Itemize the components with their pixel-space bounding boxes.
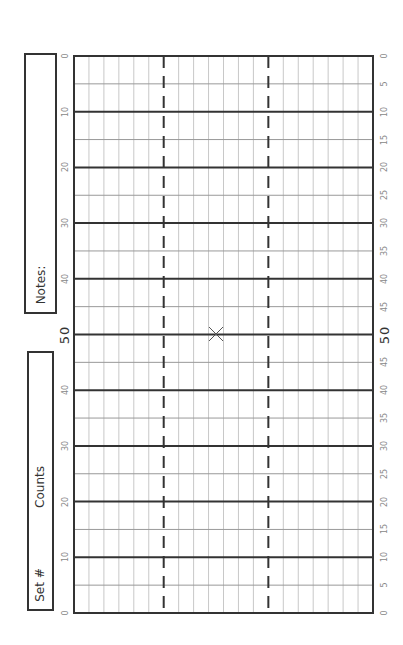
right-yard-label: 50 [377, 325, 392, 344]
right-yard-label: 30 [380, 218, 389, 228]
left-yard-label: 30 [61, 441, 70, 451]
right-yard-label: 20 [380, 497, 389, 507]
left-yard-label: 20 [61, 162, 70, 172]
right-yard-label: 20 [380, 162, 389, 172]
right-yard-label: 15 [380, 524, 389, 534]
left-yard-label: 30 [61, 218, 70, 228]
right-yard-label: 45 [380, 302, 389, 312]
right-yard-label: 0 [380, 53, 389, 58]
left-yard-label: 50 [57, 325, 72, 344]
right-yard-label: 15 [380, 134, 389, 144]
right-yard-label: 45 [380, 357, 389, 367]
right-yard-label: 10 [380, 107, 389, 117]
left-yard-label: 20 [61, 497, 70, 507]
field-grid[interactable] [0, 0, 403, 645]
left-yard-label: 10 [61, 552, 70, 562]
right-yard-label: 10 [380, 552, 389, 562]
right-yard-label: 25 [380, 190, 389, 200]
right-yard-label: 5 [380, 81, 389, 86]
right-yard-label: 40 [380, 385, 389, 395]
left-yard-label: 10 [61, 107, 70, 117]
right-yard-label: 35 [380, 413, 389, 423]
left-yard-label: 0 [61, 610, 70, 615]
left-yard-label: 40 [61, 274, 70, 284]
right-yard-label: 40 [380, 274, 389, 284]
right-yard-label: 5 [380, 583, 389, 588]
position-marker-x-icon[interactable] [208, 326, 224, 342]
field-grid-lines [0, 0, 403, 645]
right-yard-label: 0 [380, 610, 389, 615]
left-yard-label: 40 [61, 385, 70, 395]
right-yard-label: 35 [380, 246, 389, 256]
right-yard-label: 25 [380, 469, 389, 479]
left-yard-label: 0 [61, 53, 70, 58]
right-yard-label: 30 [380, 441, 389, 451]
